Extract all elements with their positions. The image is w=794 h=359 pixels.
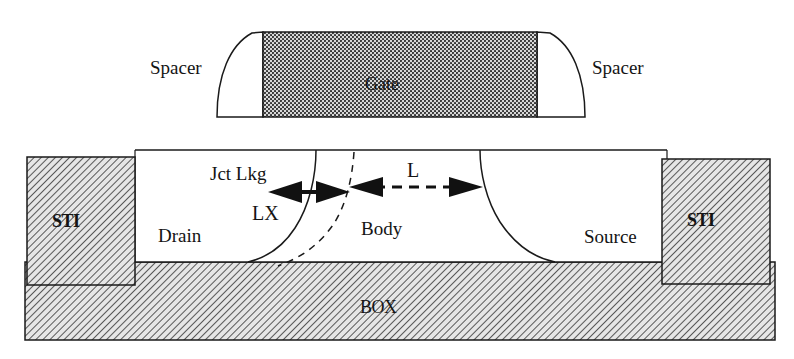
- spacer-right-shape: [537, 32, 585, 117]
- label-body: Body: [361, 219, 402, 238]
- diagram-canvas: [0, 0, 794, 359]
- gate-block: [263, 32, 537, 117]
- label-sti-right: STI: [687, 211, 715, 229]
- label-l: L: [407, 160, 419, 180]
- label-source: Source: [584, 227, 637, 246]
- label-drain: Drain: [158, 226, 201, 245]
- label-jct-lkg: Jct Lkg: [210, 164, 266, 183]
- label-lx: LX: [252, 203, 279, 223]
- label-spacer-right: Spacer: [592, 58, 644, 77]
- label-box: BOX: [360, 298, 397, 316]
- sti-right-region: [662, 159, 770, 284]
- label-spacer-left: Spacer: [150, 58, 202, 77]
- label-gate: Gate: [365, 75, 399, 93]
- sti-left-region: [27, 157, 135, 285]
- label-sti-left: STI: [52, 212, 80, 230]
- spacer-left-shape: [217, 32, 263, 117]
